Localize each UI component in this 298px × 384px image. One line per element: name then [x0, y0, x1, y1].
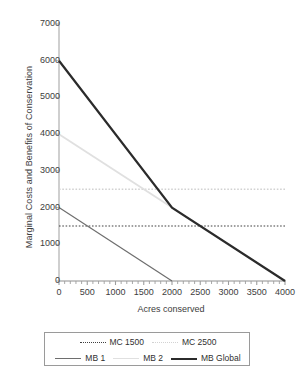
dotted-dark-line-icon — [80, 338, 106, 347]
legend-item[interactable]: MB Global — [171, 353, 241, 363]
legend-label: MB 2 — [143, 353, 163, 363]
y-tick-label: 3000 — [24, 166, 60, 175]
legend-item[interactable]: MC 1500 — [80, 337, 145, 347]
series-line-mb-global — [59, 61, 285, 281]
solid-black-line-icon — [171, 354, 197, 363]
x-axis-tick-labels: 05001000150020002500300035004000 — [0, 288, 298, 302]
legend-item[interactable]: MC 2500 — [152, 337, 217, 347]
legend-label: MB 1 — [85, 353, 105, 363]
x-axis-label: Acres conserved — [56, 304, 286, 314]
y-tick-label: 6000 — [24, 56, 60, 65]
y-tick-label: 4000 — [24, 129, 60, 138]
y-axis-tick-labels: 01000200030004000500060007000 — [22, 0, 60, 300]
legend-row-1: MC 1500MC 2500 — [45, 334, 251, 350]
legend-item[interactable]: MB 2 — [113, 353, 163, 363]
legend-row-2: MB 1MB 2MB Global — [45, 350, 251, 366]
solid-medium-line-icon — [113, 354, 139, 363]
y-tick-label: 2000 — [24, 203, 60, 212]
series-line-mb-1 — [59, 208, 172, 281]
series-line-mb-2 — [59, 134, 172, 207]
y-tick-label: 0 — [24, 276, 60, 285]
legend-label: MC 1500 — [110, 337, 145, 347]
chart-plot-area: Marginal Costs and Benefits of Conservat… — [0, 0, 298, 300]
legend-label: MC 2500 — [182, 337, 217, 347]
figure-container: Marginal Costs and Benefits of Conservat… — [0, 0, 298, 384]
chart-legend: MC 1500MC 2500 MB 1MB 2MB Global — [44, 332, 250, 366]
dotted-light-line-icon — [152, 338, 178, 347]
legend-item[interactable]: MB 1 — [55, 353, 105, 363]
y-tick-label: 1000 — [24, 239, 60, 248]
legend-label: MB Global — [201, 353, 241, 363]
solid-gray-line-icon — [55, 354, 81, 363]
y-tick-label: 7000 — [24, 19, 60, 28]
y-tick-label: 5000 — [24, 92, 60, 101]
x-tick-label: 4000 — [265, 288, 298, 297]
